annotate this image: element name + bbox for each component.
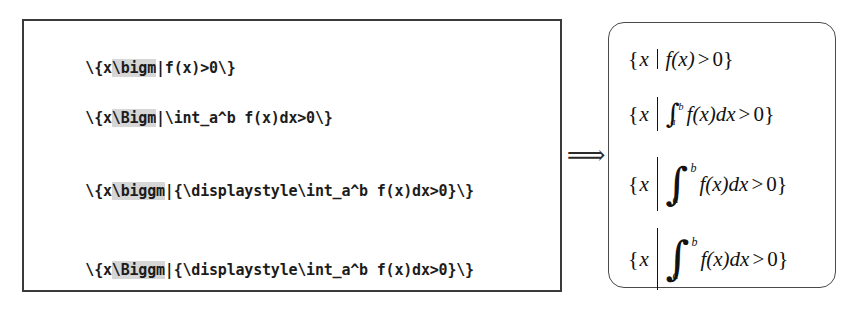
brace-open: { bbox=[628, 101, 639, 127]
code-suffix: |{\displaystyle\int_a^b f(x)dx>0}\} bbox=[165, 182, 474, 200]
comparison-value: 0 bbox=[766, 172, 777, 197]
brace-open: { bbox=[628, 171, 639, 197]
relation-operator: > bbox=[695, 47, 713, 72]
code-line: \{x\biggm|{\displaystyle\int_a^b f(x)dx>… bbox=[50, 164, 474, 218]
rendered-math-panel: { x f(x) > 0 } { x ∫ b a f(x)dx > 0 } { … bbox=[608, 22, 836, 288]
brace-close: } bbox=[777, 171, 788, 197]
brace-close: } bbox=[778, 246, 789, 272]
code-line: \{x\Biggm|{\displaystyle\int_a^b f(x)dx>… bbox=[50, 243, 474, 297]
brace-close: } bbox=[723, 46, 734, 72]
integral-lower-limit: a bbox=[672, 192, 696, 207]
integral-lower-limit: a bbox=[672, 268, 697, 283]
comparison-value: 0 bbox=[753, 102, 764, 127]
expression: f(x)dx bbox=[700, 247, 749, 272]
math-row: { x ∫ b a f(x)dx > 0 } bbox=[628, 85, 774, 143]
integral-upper-limit: b bbox=[679, 101, 684, 112]
set-divider-bar bbox=[657, 228, 659, 290]
set-divider-bar bbox=[657, 157, 659, 211]
implies-arrow-icon: ⟹ bbox=[566, 138, 606, 172]
math-row: { x ∫ b a f(x)dx > 0 } bbox=[628, 219, 788, 299]
code-prefix: \{x bbox=[85, 109, 112, 127]
code-prefix: \{x bbox=[85, 261, 112, 279]
comparison-value: 0 bbox=[712, 47, 723, 72]
relation-operator: > bbox=[736, 102, 754, 127]
integral-limits: b a bbox=[674, 101, 684, 127]
brace-close: } bbox=[764, 101, 775, 127]
integral-symbol-group: ∫ b a bbox=[665, 161, 696, 207]
integral-lower-limit: a bbox=[671, 116, 684, 127]
expression: f(x)dx bbox=[687, 102, 736, 127]
highlighted-macro: \Bigm bbox=[112, 109, 156, 127]
expression: f(x)dx bbox=[699, 172, 748, 197]
integral-limits: b a bbox=[676, 235, 697, 283]
code-line: \{x\bigm|f(x)>0\} bbox=[50, 41, 235, 95]
math-row: { x f(x) > 0 } bbox=[628, 37, 734, 81]
integral-symbol-group: ∫ b a bbox=[665, 235, 697, 283]
brace-open: { bbox=[628, 46, 639, 72]
set-variable: x bbox=[639, 172, 650, 197]
code-prefix: \{x bbox=[85, 59, 112, 77]
set-variable: x bbox=[639, 247, 650, 272]
integral-upper-limit: b bbox=[691, 235, 697, 250]
integral-symbol-group: ∫ b a bbox=[665, 101, 683, 127]
set-divider-bar bbox=[657, 97, 659, 131]
highlighted-macro: \biggm bbox=[112, 182, 165, 200]
brace-open: { bbox=[628, 246, 639, 272]
code-prefix: \{x bbox=[85, 182, 112, 200]
set-variable: x bbox=[639, 102, 650, 127]
highlighted-macro: \Biggm bbox=[112, 261, 165, 279]
highlighted-macro: \bigm bbox=[112, 59, 156, 77]
set-divider-bar bbox=[657, 49, 659, 69]
math-row: { x ∫ b a f(x)dx > 0 } bbox=[628, 147, 787, 221]
latex-source-panel: \{x\bigm|f(x)>0\} \{x\Bigm|\int_a^b f(x)… bbox=[22, 19, 562, 292]
set-variable: x bbox=[639, 47, 650, 72]
comparison-value: 0 bbox=[767, 247, 778, 272]
integral-upper-limit: b bbox=[690, 161, 696, 176]
integral-limits: b a bbox=[676, 161, 696, 207]
code-suffix: |\int_a^b f(x)dx>0\} bbox=[156, 109, 333, 127]
code-suffix: |f(x)>0\} bbox=[156, 59, 235, 77]
expression: f(x) bbox=[665, 47, 694, 72]
relation-operator: > bbox=[748, 172, 766, 197]
code-line: \{x\Bigm|\int_a^b f(x)dx>0\} bbox=[50, 91, 333, 145]
code-suffix: |{\displaystyle\int_a^b f(x)dx>0}\} bbox=[165, 261, 474, 279]
relation-operator: > bbox=[749, 247, 767, 272]
